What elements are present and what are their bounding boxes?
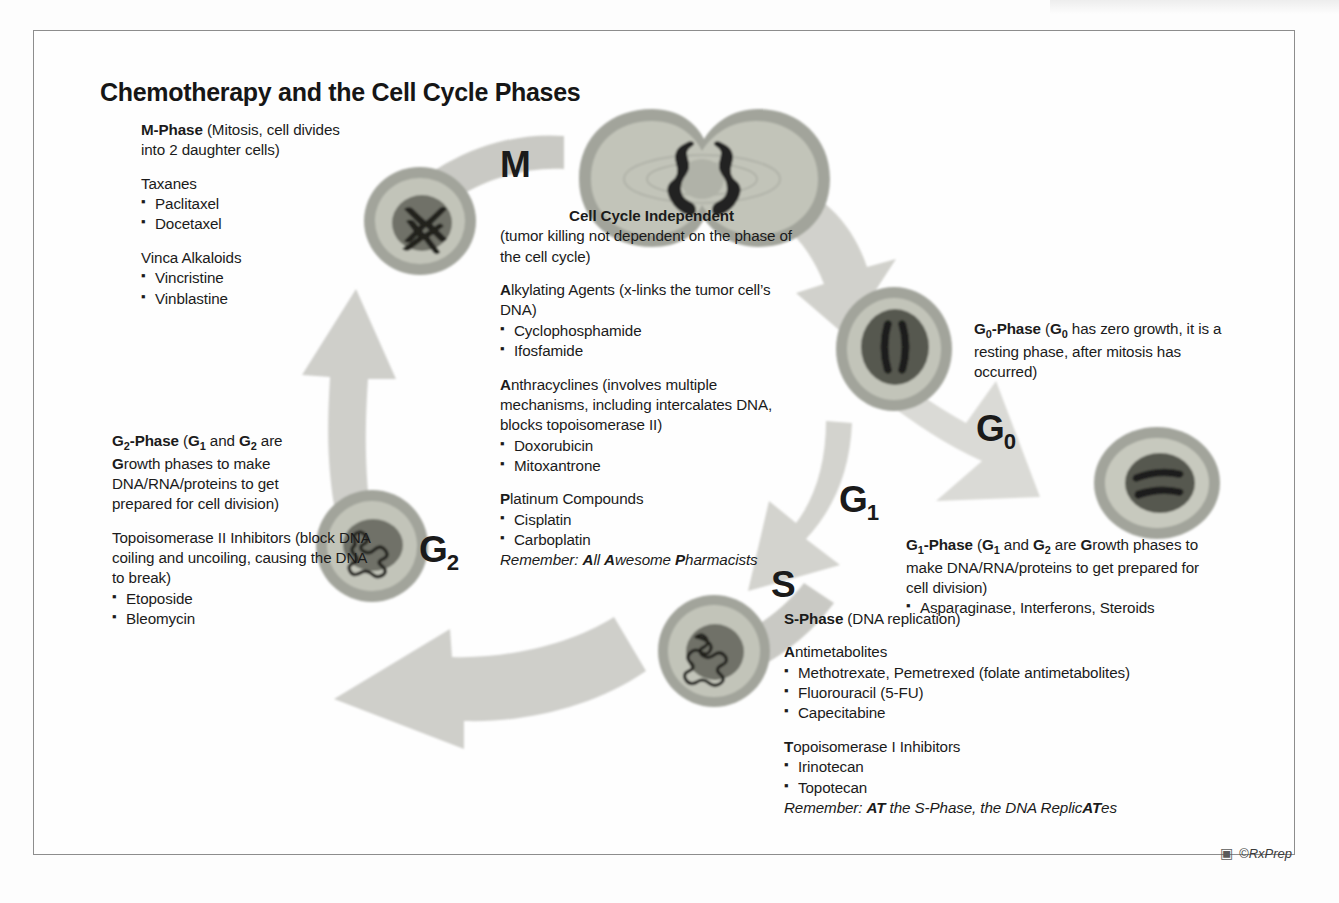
group-title: Taxanes <box>141 174 366 194</box>
m-phase-group-vinca: Vinca Alkaloids Vincristine Vinblastine <box>141 248 366 309</box>
list-item: Mitoxantrone <box>500 456 803 476</box>
g2-group-topo2: Topoisomerase II Inhibitors (block DNA c… <box>112 528 374 630</box>
mnemonic-bold: A <box>604 551 615 568</box>
group-title-rest: opoisomerase I Inhibitors <box>793 738 960 755</box>
group-items: Vincristine Vinblastine <box>141 268 366 309</box>
cycle-label-m: M <box>500 144 530 186</box>
arrow-s-to-g2 <box>334 617 646 749</box>
diagram-page: Chemotherapy and the Cell Cycle Phases M… <box>0 0 1339 903</box>
cell-m-chromosomes <box>364 167 476 275</box>
g2-heading: G2-Phase (G1 and G2 are Growth phases to… <box>112 431 330 515</box>
mnemonic-label: Remember: <box>784 799 867 816</box>
group-items: Cyclophosphamide Ifosfamide <box>500 321 803 362</box>
credit: ▣ ©RxPrep <box>1220 845 1292 861</box>
group-title: Platinum Compounds <box>500 489 803 509</box>
m-phase-heading-bold: M-Phase <box>141 121 203 138</box>
camera-icon: ▣ <box>1220 845 1233 861</box>
g2-label: G2-Phase <box>112 432 179 449</box>
group-items: Methotrexate, Pemetrexed (folate antimet… <box>784 663 1216 724</box>
list-item: Cisplatin <box>500 510 803 530</box>
list-item: Topotecan <box>784 778 1216 798</box>
mnemonic-mid: the S-Phase, the DNA Replic <box>885 799 1082 816</box>
group-title-rest: latinum Compounds <box>510 490 643 507</box>
cycle-label-g2: G2 <box>419 529 458 576</box>
s-phase-heading-rest: (DNA replication) <box>843 610 960 627</box>
group-title-rest: ntimetabolites <box>795 643 887 660</box>
mnemonic-label: Remember: <box>500 551 583 568</box>
group-title-text: Topoisomerase II Inhibitors (block DNA c… <box>112 529 370 587</box>
cci-mnemonic: Remember: All Awesome Pharmacists <box>500 550 803 570</box>
cell-g0-resting <box>1094 427 1220 539</box>
group-items: Paclitaxel Docetaxel <box>141 194 366 235</box>
g0-phase-block: G0-Phase (G0 has zero growth, it is a re… <box>974 319 1232 382</box>
mnemonic-rest: wesome <box>615 551 675 568</box>
g0-heading: G0-Phase (G0 has zero growth, it is a re… <box>974 319 1232 382</box>
group-title: Alkylating Agents (x-links the tumor cel… <box>500 280 803 321</box>
s-phase-block: S-Phase (DNA replication) Antimetabolite… <box>784 609 1216 818</box>
diagram-frame: Chemotherapy and the Cell Cycle Phases M… <box>33 30 1295 855</box>
g1-phase-block: G1-Phase (G1 and G2 are Growth phases to… <box>906 535 1224 619</box>
g0-paren: ( <box>1041 320 1050 337</box>
cycle-label-g0: G0 <box>976 408 1015 455</box>
s-phase-heading: S-Phase (DNA replication) <box>784 609 1216 629</box>
bold-initial: A <box>784 643 795 660</box>
g0-bold: G0-Phase <box>974 320 1041 337</box>
mnemonic-end: es <box>1101 799 1117 816</box>
list-item: Methotrexate, Pemetrexed (folate antimet… <box>784 663 1216 683</box>
cell-cycle-independent-block: Cell Cycle Independent (tumor killing no… <box>500 206 803 571</box>
cycle-label-g1: G1 <box>839 479 878 526</box>
group-title: Topoisomerase II Inhibitors (block DNA c… <box>112 528 374 589</box>
cci-subheading: (tumor killing not dependent on the phas… <box>500 226 803 267</box>
mnemonic-bold: A <box>583 551 594 568</box>
s-phase-heading-bold: S-Phase <box>784 610 843 627</box>
list-item: Capecitabine <box>784 703 1216 723</box>
s-group-topo1: Topoisomerase I Inhibitors Irinotecan To… <box>784 737 1216 798</box>
g2-phase-block: G2-Phase (G1 and G2 are Growth phases to… <box>112 431 330 630</box>
credit-text: ©RxPrep <box>1239 846 1292 861</box>
m-phase-group-taxanes: Taxanes Paclitaxel Docetaxel <box>141 174 366 235</box>
mnemonic-bold: AT <box>1082 799 1101 816</box>
group-title: Anthracyclines (involves multiple mechan… <box>500 375 803 436</box>
cci-group-anthracyclines: Anthracyclines (involves multiple mechan… <box>500 375 803 477</box>
g0-bold2: G0 <box>1050 320 1068 337</box>
bold-initial: A <box>500 376 511 393</box>
g1-label: G1-Phase <box>906 536 973 553</box>
s-group-antimetabolites: Antimetabolites Methotrexate, Pemetrexed… <box>784 642 1216 723</box>
cell-s-phase <box>658 595 770 707</box>
list-item: Doxorubicin <box>500 436 803 456</box>
bold-initial: A <box>500 281 511 298</box>
page-top-bleed <box>1050 0 1339 14</box>
list-item: Vincristine <box>141 268 366 288</box>
group-title: Topoisomerase I Inhibitors <box>784 737 1216 757</box>
bold-initial: P <box>500 490 510 507</box>
list-item: Docetaxel <box>141 214 366 234</box>
group-title: Antimetabolites <box>784 642 1216 662</box>
list-item: Cyclophosphamide <box>500 321 803 341</box>
m-phase-heading: M-Phase (Mitosis, cell divides into 2 da… <box>141 120 366 161</box>
group-title-rest: nthracyclines (involves multiple mechani… <box>500 376 772 434</box>
list-item: Fluorouracil (5-FU) <box>784 683 1216 703</box>
cci-group-platinum: Platinum Compounds Cisplatin Carboplatin <box>500 489 803 550</box>
group-items: Irinotecan Topotecan <box>784 757 1216 798</box>
group-title-rest: lkylating Agents (x-links the tumor cell… <box>500 281 771 318</box>
group-items: Cisplatin Carboplatin <box>500 510 803 551</box>
mnemonic-bold: AT <box>867 799 886 816</box>
cell-g1 <box>836 287 952 411</box>
list-item: Bleomycin <box>112 609 374 629</box>
s-phase-mnemonic: Remember: AT the S-Phase, the DNA Replic… <box>784 798 1216 818</box>
mnemonic-bold: P <box>675 551 685 568</box>
list-item: Paclitaxel <box>141 194 366 214</box>
group-items: Doxorubicin Mitoxantrone <box>500 436 803 477</box>
mnemonic-rest: ll <box>593 551 604 568</box>
m-phase-block: M-Phase (Mitosis, cell divides into 2 da… <box>141 120 366 309</box>
list-item: Carboplatin <box>500 530 803 550</box>
list-item: Ifosfamide <box>500 341 803 361</box>
group-items: Etoposide Bleomycin <box>112 589 374 630</box>
list-item: Vinblastine <box>141 289 366 309</box>
mnemonic-rest: harmacists <box>685 551 757 568</box>
g1-heading: G1-Phase (G1 and G2 are Growth phases to… <box>906 535 1224 598</box>
list-item: Etoposide <box>112 589 374 609</box>
cci-heading: Cell Cycle Independent <box>500 206 803 226</box>
bold-initial: T <box>784 738 793 755</box>
list-item: Irinotecan <box>784 757 1216 777</box>
